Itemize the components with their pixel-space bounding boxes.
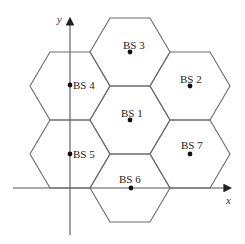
hexagonal-cell-diagram: x y BS 1 BS 2 BS 3 BS 4 BS 5 BS 6 BS 7	[0, 0, 245, 244]
base-station-label-bs5: BS 5	[73, 148, 95, 160]
base-station-dot-bs4	[68, 83, 73, 88]
base-station-dot-bs6	[129, 186, 134, 191]
base-station-label-bs3: BS 3	[123, 39, 145, 51]
base-station-dot-bs5	[68, 152, 73, 157]
base-station-label-bs7: BS 7	[181, 139, 203, 151]
base-station-label-bs4: BS 4	[73, 79, 95, 91]
x-axis-label: x	[225, 194, 231, 206]
base-station-label-bs6: BS 6	[119, 173, 141, 185]
y-axis-label: y	[56, 13, 62, 25]
base-station-dot-bs7	[188, 152, 193, 157]
base-station-label-bs1: BS 1	[121, 107, 143, 119]
base-station-label-bs2: BS 2	[180, 73, 202, 85]
